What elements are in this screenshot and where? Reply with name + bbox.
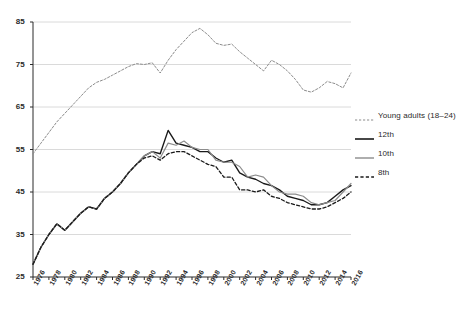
legend-line-swatch-icon bbox=[355, 111, 374, 121]
series-line-0 bbox=[33, 28, 351, 153]
series-line-3 bbox=[33, 152, 351, 265]
line-chart: 25354555657585 1976197819801982198419861… bbox=[0, 0, 465, 325]
legend-item-label: 10th bbox=[378, 149, 394, 158]
legend-item[interactable]: Young adults (18–24) bbox=[355, 106, 456, 125]
series-line-1 bbox=[33, 130, 351, 264]
legend-item[interactable]: 8th bbox=[355, 163, 456, 182]
legend-item[interactable]: 12th bbox=[355, 125, 456, 144]
legend-item-label: 8th bbox=[378, 168, 389, 177]
chart-legend: Young adults (18–24)12th10th8th bbox=[355, 106, 456, 182]
y-axis-tick-label: 25 bbox=[3, 272, 25, 281]
y-axis-tick-label: 45 bbox=[3, 187, 25, 196]
y-axis-tick-label: 85 bbox=[3, 17, 25, 26]
legend-line-swatch-icon bbox=[355, 168, 374, 178]
y-axis-tick-label: 55 bbox=[3, 145, 25, 154]
legend-item-label: Young adults (18–24) bbox=[378, 111, 456, 120]
y-axis-tick-label: 75 bbox=[3, 60, 25, 69]
legend-line-swatch-icon bbox=[355, 130, 374, 140]
legend-line-swatch-icon bbox=[355, 149, 374, 159]
y-axis-tick-label: 65 bbox=[3, 102, 25, 111]
series-line-2 bbox=[33, 141, 351, 264]
y-axis-tick-label: 35 bbox=[3, 230, 25, 239]
legend-item-label: 12th bbox=[378, 130, 394, 139]
legend-item[interactable]: 10th bbox=[355, 144, 456, 163]
